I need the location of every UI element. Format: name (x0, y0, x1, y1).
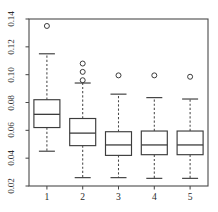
x-axis-tick-label: 2 (73, 191, 93, 202)
boxplot-box (34, 23, 60, 151)
outlier-point (116, 73, 121, 78)
box-iqr (70, 119, 96, 146)
box-iqr (106, 132, 132, 156)
boxplot-box (70, 61, 96, 178)
x-axis-tick-label: 1 (37, 191, 57, 202)
boxplot-figure: 0.020.040.060.080.100.120.14 12345 (0, 0, 218, 212)
x-axis-tick-label: 3 (109, 191, 129, 202)
outlier-point (152, 73, 157, 78)
x-axis-tick-label: 4 (144, 191, 164, 202)
outlier-point (80, 78, 85, 83)
box-iqr (34, 100, 60, 128)
box-iqr (141, 131, 167, 155)
y-axis-tick-label: 0.14 (4, 0, 18, 39)
outlier-point (188, 74, 193, 79)
x-axis-tick-label: 5 (180, 191, 200, 202)
boxplot-box (141, 73, 167, 178)
boxplot-box (106, 73, 132, 178)
outlier-point (80, 69, 85, 74)
boxplot-series (34, 23, 203, 178)
outlier-point (44, 23, 49, 28)
box-iqr (177, 131, 203, 155)
boxplot-box (177, 74, 203, 178)
boxplot-canvas (0, 0, 218, 212)
outlier-point (80, 61, 85, 66)
